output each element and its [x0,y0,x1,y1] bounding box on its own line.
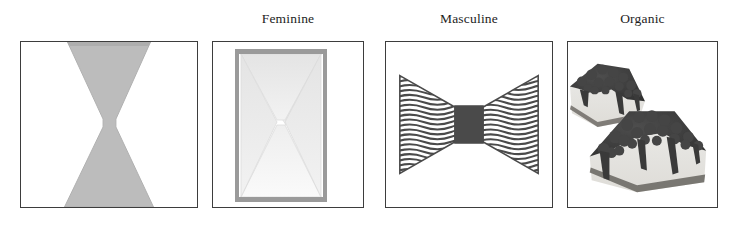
panel-masculine [385,41,553,208]
feminine-frame-inner [239,54,323,197]
bowtie-knot [454,105,484,144]
panel-caption-organic: Organic [567,12,718,26]
panel-caption-masculine: Masculine [385,12,553,26]
panel-plain [20,41,198,208]
cheesecake-photo [568,42,717,207]
panel-feminine [212,41,364,208]
bowtie-wavy-icon [386,42,552,207]
bowtie-solid-icon [21,42,197,207]
bowtie-pale-icon [239,54,323,197]
panel-caption-feminine: Feminine [212,12,364,26]
feminine-grey-frame [235,49,327,202]
figure-strip: Feminine Masculine Organic [0,0,745,229]
panel-organic [567,41,718,208]
